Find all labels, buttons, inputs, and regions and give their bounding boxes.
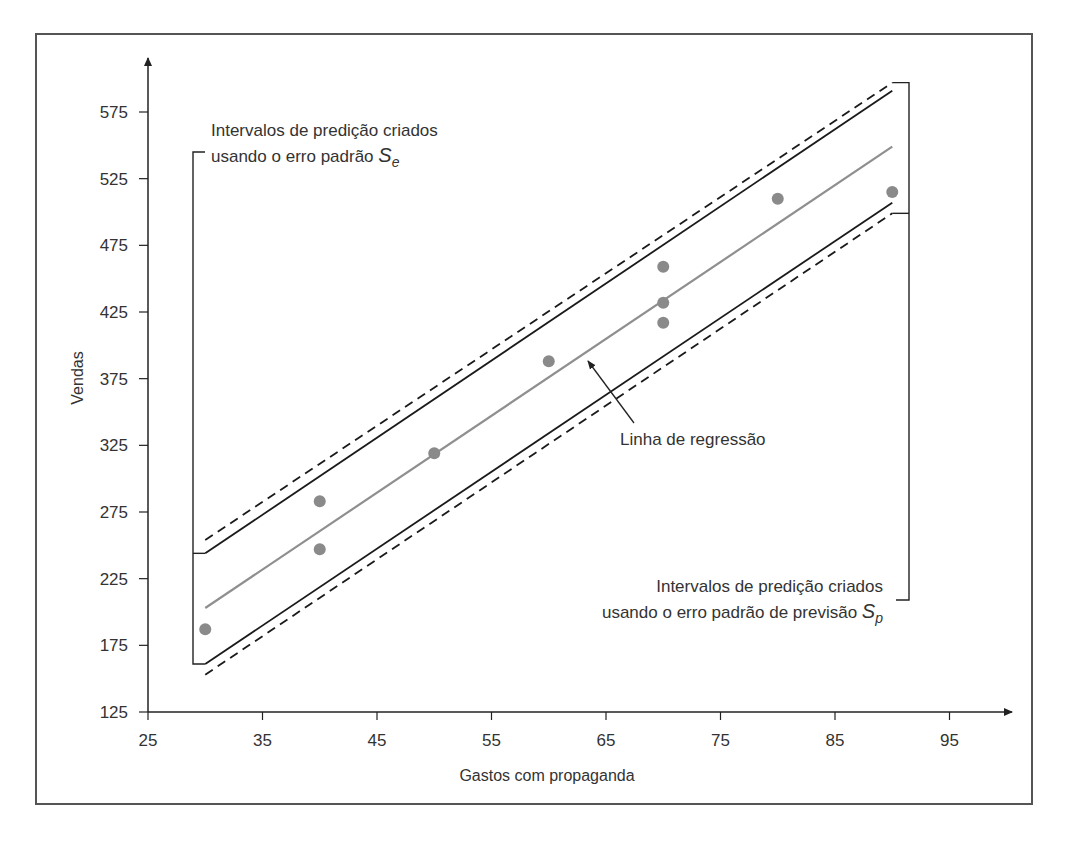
y-axis-title: Vendas	[69, 351, 86, 404]
x-axis-title: Gastos com propaganda	[459, 767, 634, 784]
data-point	[428, 447, 440, 459]
y-tick-label: 125	[100, 703, 128, 722]
y-tick-label: 525	[100, 170, 128, 189]
y-tick-label: 375	[100, 370, 128, 389]
y-tick-label: 325	[100, 436, 128, 455]
annotation-sp-line1: Intervalos de predição criados	[656, 577, 883, 596]
annotation-regression: Linha de regressão	[588, 361, 766, 449]
x-tick-label: 75	[711, 731, 730, 750]
annotation-sp-line2: usando o erro padrão de previsão Sp	[602, 600, 883, 626]
data-point	[199, 623, 211, 635]
y-tick-label: 275	[100, 503, 128, 522]
y-tick-label: 425	[100, 303, 128, 322]
data-point	[314, 495, 326, 507]
annotation-sp: Intervalos de predição criados usando o …	[602, 577, 883, 626]
y-tick-label: 225	[100, 570, 128, 589]
annotation-se-line2: usando o erro padrão Se	[211, 144, 400, 170]
x-tick-label: 45	[368, 731, 387, 750]
data-points	[199, 186, 898, 635]
data-point	[772, 193, 784, 205]
data-point	[657, 297, 669, 309]
data-point	[314, 543, 326, 555]
x-tick-label: 85	[826, 731, 845, 750]
x-tick-label: 35	[253, 731, 272, 750]
regression-label: Linha de regressão	[620, 430, 766, 449]
x-tick-label: 65	[597, 731, 616, 750]
annotation-se: Intervalos de predição criados usando o …	[211, 121, 438, 170]
x-tick-label: 95	[940, 731, 959, 750]
y-tick-label: 475	[100, 236, 128, 255]
y-tick-label: 175	[100, 636, 128, 655]
y-tick-label: 575	[100, 103, 128, 122]
data-point	[543, 355, 555, 367]
data-point	[657, 261, 669, 273]
x-tick-label: 25	[139, 731, 158, 750]
left-bracket	[193, 152, 205, 664]
regression-chart: 2535455565758595125175225275325375425475…	[0, 0, 1066, 841]
right-bracket	[892, 83, 909, 600]
data-point	[886, 186, 898, 198]
axis-ticks: 2535455565758595125175225275325375425475…	[100, 103, 959, 750]
data-point	[657, 317, 669, 329]
regression-line	[205, 147, 892, 608]
x-tick-label: 55	[482, 731, 501, 750]
annotation-se-line1: Intervalos de predição criados	[211, 121, 438, 140]
